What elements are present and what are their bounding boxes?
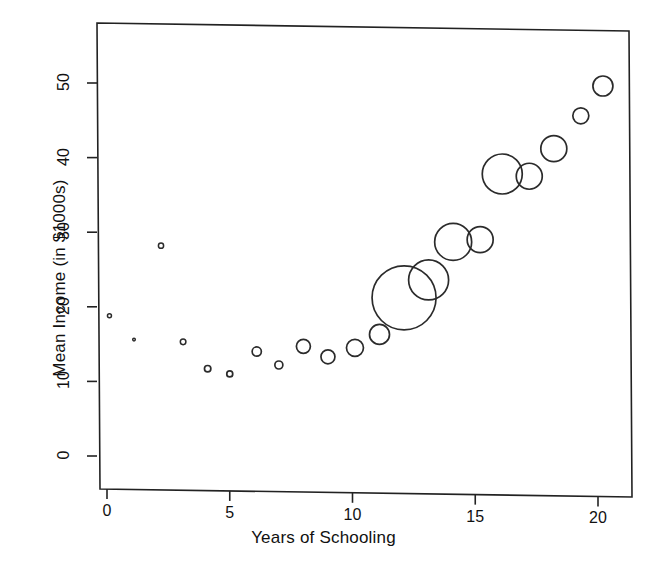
data-point [516,163,542,189]
plot-border [97,23,632,497]
data-point [321,350,335,364]
data-point [573,108,589,124]
x-axis-tick-label: 0 [87,502,127,520]
x-axis-tick-label: 5 [210,504,250,522]
data-point [372,266,436,330]
data-point [107,314,111,318]
data-point [409,260,449,300]
data-point [296,339,310,353]
data-points [107,76,612,377]
x-axis-tick-label: 15 [455,508,495,526]
x-axis-title: Years of Schooling [0,528,647,548]
data-point [593,76,613,96]
bubble-chart: 01020304050 05101520 Years of Schooling … [0,0,647,567]
data-point [133,338,136,341]
y-axis-title: Mean Income (in $1000s) [50,68,70,488]
data-point [227,371,233,377]
data-point [370,324,390,344]
data-point [180,339,186,345]
data-point [435,223,472,260]
x-axis-ticks [107,489,598,506]
y-axis-ticks [87,83,97,456]
plot-area [0,0,647,567]
x-axis-tick-label: 10 [333,506,373,524]
data-point [158,243,163,248]
data-point [275,361,283,369]
data-point [252,347,261,356]
data-point [541,136,567,162]
data-point [204,366,210,372]
x-axis-tick-label: 20 [578,509,618,527]
axis-frame [97,23,632,497]
data-point [346,339,363,356]
